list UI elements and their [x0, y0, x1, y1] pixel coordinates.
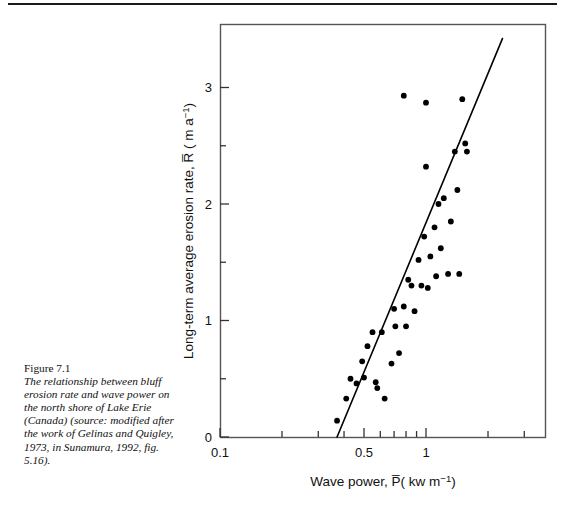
y-tick-label: 2	[205, 197, 212, 212]
scatter-figure: 0123 0.10.51 Wave power, P̅( kw m−1) Lon…	[0, 0, 565, 509]
data-point	[456, 271, 462, 277]
data-point	[445, 271, 451, 277]
data-point	[412, 308, 418, 314]
data-point	[379, 329, 385, 335]
data-point	[452, 149, 458, 155]
data-point	[433, 273, 439, 279]
data-point	[403, 323, 409, 329]
data-point	[419, 283, 425, 289]
y-axis-title: Long-term average erosion rate, R̅ ( m a…	[180, 103, 197, 359]
data-point	[423, 164, 429, 170]
data-point	[359, 358, 365, 364]
data-point	[416, 257, 422, 263]
x-axis-ticks	[220, 428, 524, 437]
figure-page: Figure 7.1 The relationship between bluf…	[0, 0, 565, 509]
y-axis-title-overbar-r: R̅	[181, 153, 196, 163]
data-point	[421, 234, 427, 240]
plot-frame	[221, 25, 546, 438]
data-point	[374, 385, 380, 391]
data-point	[425, 285, 431, 291]
data-point	[354, 381, 360, 387]
data-point	[427, 254, 433, 260]
data-point	[391, 306, 397, 312]
y-axis-title-part3: )	[181, 103, 196, 108]
data-point	[365, 343, 371, 349]
data-point	[438, 245, 444, 251]
data-point	[441, 195, 447, 201]
data-point-group	[334, 93, 470, 424]
y-axis-tick-labels: 0123	[205, 80, 212, 445]
data-point	[348, 376, 354, 382]
data-point	[401, 93, 407, 99]
data-point	[396, 350, 402, 356]
data-point	[382, 396, 388, 402]
x-axis-title-part1: Wave power,	[310, 474, 391, 489]
x-axis-title-part3: )	[451, 474, 456, 489]
y-axis-title-exponent: −1	[180, 107, 191, 118]
data-point	[343, 396, 349, 402]
data-point	[432, 224, 438, 230]
x-axis-title-exponent: −1	[440, 473, 451, 484]
y-tick-label: 3	[205, 80, 212, 95]
x-tick-label: 1	[422, 445, 429, 460]
x-axis-title-part2: ( kw m	[401, 474, 441, 489]
data-point	[401, 304, 407, 310]
x-tick-label: 0.5	[355, 445, 373, 460]
data-point	[334, 418, 340, 424]
plot-canvas: 0123 0.10.51 Wave power, P̅( kw m−1) Lon…	[0, 0, 565, 509]
data-point	[389, 361, 395, 367]
data-point	[464, 149, 470, 155]
data-point	[370, 329, 376, 335]
y-axis-title-part1: Long-term average erosion rate,	[181, 163, 196, 360]
data-point	[373, 379, 379, 385]
data-point	[405, 277, 411, 283]
data-point	[448, 219, 454, 225]
data-point	[462, 141, 468, 147]
y-axis-title-part2: ( m a	[181, 118, 196, 153]
data-point	[361, 375, 367, 381]
y-tick-label: 1	[205, 313, 212, 328]
data-point	[423, 100, 429, 106]
data-point	[454, 187, 460, 193]
data-point	[409, 283, 415, 289]
x-tick-label: 0.1	[211, 445, 229, 460]
x-axis-title: Wave power, P̅( kw m−1)	[310, 473, 455, 490]
data-point	[436, 201, 442, 207]
y-axis-ticks	[220, 88, 229, 438]
data-point	[459, 96, 465, 102]
data-point	[392, 323, 398, 329]
y-tick-label: 0	[205, 430, 212, 445]
x-axis-tick-labels: 0.10.51	[211, 445, 430, 460]
x-axis-title-overbar-p: P̅	[392, 474, 401, 489]
